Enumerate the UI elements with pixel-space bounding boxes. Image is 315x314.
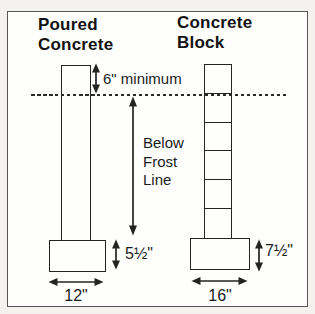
right-footing-height-arrow-icon [252,239,266,272]
frost-depth-arrow-icon [126,96,140,236]
concrete-block-footing [190,238,250,270]
right-footing-width-label: 16" [203,287,237,305]
below-frost-line-label: Below Frost Line [143,134,184,190]
right-footing-width-arrow-icon [191,274,248,288]
concrete-block-title-line2: Block [177,33,224,52]
frost-label-line2: Frost [143,153,177,170]
left-footing-height-label: 5½" [125,245,153,263]
right-footing-height-label: 7½" [265,242,293,260]
poured-concrete-footing [49,240,106,272]
poured-concrete-title-line1: Poured [38,15,98,34]
min-depth-label: 6" minimum [103,70,182,89]
concrete-block-wall [204,64,232,238]
concrete-block-title: Concrete Block [177,13,252,53]
concrete-block-title-line1: Concrete [177,13,252,32]
block-joint-line [205,122,231,123]
frost-label-line3: Line [143,171,171,188]
poured-concrete-wall [61,65,91,240]
frost-label-line1: Below [143,134,184,151]
block-joint-line [205,179,231,180]
block-joint-line [205,208,231,209]
left-footing-height-arrow-icon [109,239,123,270]
foundation-diagram: Poured Concrete Concrete Block [0,0,315,314]
block-joint-line [205,150,231,151]
min-depth-arrow-icon [89,63,103,94]
grade-dashed-line [31,94,288,96]
poured-concrete-title: Poured Concrete [38,15,113,55]
left-footing-width-label: 12" [60,287,92,305]
poured-concrete-title-line2: Concrete [38,35,113,54]
